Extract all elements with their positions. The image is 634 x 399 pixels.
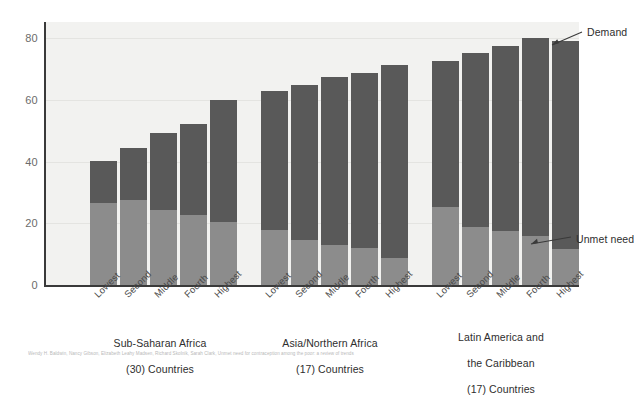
bar-1-fourth	[351, 22, 378, 285]
group-caption-line-1: Latin America and	[421, 331, 581, 344]
annotation-label-unmet-need: Unmet need	[576, 233, 634, 245]
source-footnote: Wendy H. Baldwin, Nancy Gibson, Elizabet…	[28, 351, 618, 363]
bar-0-fourth	[180, 22, 207, 285]
group-caption-line-2: (30) Countries	[80, 363, 240, 376]
bar-2-lowest	[432, 22, 459, 285]
bar-segment-demand	[381, 65, 408, 285]
bar-1-second	[291, 22, 318, 285]
group-caption-line-2: (17) Countries	[250, 363, 410, 376]
group-caption-line-1: Asia/Northern Africa	[250, 337, 410, 350]
group-caption-line-3: (17) Countries	[421, 383, 581, 396]
bar-1-highest	[381, 22, 408, 285]
bar-2-middle	[492, 22, 519, 285]
bar-0-middle	[150, 22, 177, 285]
annotation-label-demand: Demand	[587, 26, 627, 38]
bar-2-second	[462, 22, 489, 285]
bar-0-second	[120, 22, 147, 285]
bar-1-middle	[321, 22, 348, 285]
unmet-need-arrow-icon	[525, 234, 573, 248]
bar-0-highest	[210, 22, 237, 285]
demand-arrow-icon	[546, 30, 584, 48]
bar-0-lowest	[90, 22, 117, 285]
bar-1-lowest	[261, 22, 288, 285]
group-caption-line-1: Sub-Saharan Africa	[80, 337, 240, 350]
